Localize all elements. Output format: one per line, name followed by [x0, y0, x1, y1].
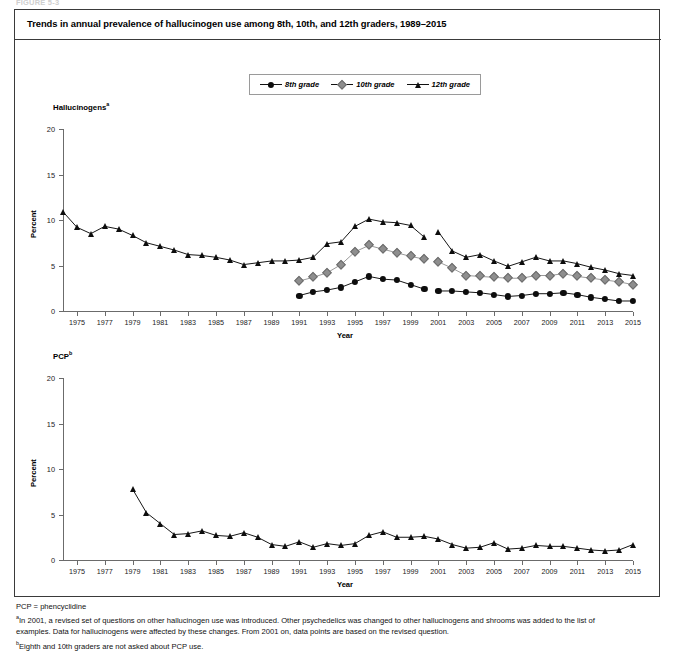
data-point-triangle [560, 543, 566, 549]
data-point-triangle [102, 223, 108, 229]
footnote-b: bEighth and 10th graders are not asked a… [16, 638, 616, 652]
data-point-triangle [338, 542, 344, 548]
data-point-triangle [241, 261, 247, 267]
data-point-triangle [560, 258, 566, 264]
footnote-a-text: In 2001, a revised set of questions on o… [16, 616, 595, 636]
data-point-triangle [143, 510, 149, 516]
data-point-triangle [449, 248, 455, 254]
data-point-triangle [171, 247, 177, 253]
data-point-triangle [421, 533, 427, 539]
data-point-triangle [213, 254, 219, 260]
data-point-triangle [616, 547, 622, 553]
series-line-12th-grade [133, 489, 633, 551]
footnote-b-text: Eighth and 10th graders are not asked ab… [19, 641, 203, 650]
data-point-triangle [116, 226, 122, 232]
data-point-triangle [463, 545, 469, 551]
data-point-triangle [463, 254, 469, 260]
chart-panel-pcp: PCPb05101520Percent197519771979198119831… [15, 335, 661, 600]
data-point-triangle [199, 528, 205, 534]
data-point-triangle [505, 263, 511, 269]
data-point-triangle [449, 541, 455, 547]
data-point-triangle [630, 272, 636, 278]
data-point-triangle [380, 219, 386, 225]
data-point-triangle [352, 223, 358, 229]
data-point-triangle [408, 222, 414, 228]
data-point-triangle [324, 540, 330, 546]
data-point-triangle [366, 532, 372, 538]
data-point-triangle [227, 257, 233, 263]
chart-panel-hallucinogens: Hallucinogensa05101520Percent19751977197… [15, 86, 661, 351]
data-point-triangle [255, 534, 261, 540]
footnote-a: aIn 2001, a revised set of questions on … [16, 612, 616, 637]
data-point-triangle [130, 486, 136, 492]
series-line-10th-grade [299, 245, 424, 280]
data-point-triangle [491, 540, 497, 546]
data-point-triangle [477, 544, 483, 550]
data-point-triangle [60, 209, 66, 215]
series-line-8th-grade [299, 276, 424, 295]
data-point-triangle [241, 530, 247, 536]
data-point-triangle [616, 271, 622, 277]
data-point-triangle [324, 241, 330, 247]
data-point-triangle [310, 254, 316, 260]
data-point-triangle [602, 548, 608, 554]
data-point-triangle [199, 252, 205, 258]
data-point-triangle [310, 544, 316, 550]
data-point-triangle [394, 534, 400, 540]
series-lines [15, 335, 661, 570]
data-point-triangle [394, 220, 400, 226]
data-point-triangle [157, 243, 163, 249]
data-point-triangle [269, 541, 275, 547]
data-point-triangle [171, 531, 177, 537]
data-point-triangle [296, 539, 302, 545]
data-point-triangle [282, 258, 288, 264]
data-point-triangle [227, 533, 233, 539]
data-point-triangle [213, 532, 219, 538]
footnotes: PCP = phencyclidine aIn 2001, a revised … [16, 601, 616, 652]
data-point-triangle [143, 240, 149, 246]
figure-frame: Trends in annual prevalence of hallucino… [14, 9, 660, 597]
data-point-triangle [477, 251, 483, 257]
data-point-triangle [255, 260, 261, 266]
data-point-triangle [519, 259, 525, 265]
data-point-triangle [296, 257, 302, 263]
data-point-triangle [338, 239, 344, 245]
data-point-triangle [435, 536, 441, 542]
data-point-triangle [435, 229, 441, 235]
data-point-triangle [157, 520, 163, 526]
data-point-triangle [185, 530, 191, 536]
data-point-triangle [547, 258, 553, 264]
data-point-triangle [630, 541, 636, 547]
data-point-triangle [491, 258, 497, 264]
data-point-triangle [366, 216, 372, 222]
data-point-triangle [408, 534, 414, 540]
data-point-triangle [505, 546, 511, 552]
footnote-abbreviation: PCP = phencyclidine [16, 601, 616, 612]
data-point-triangle [130, 232, 136, 238]
data-point-triangle [588, 547, 594, 553]
data-point-triangle [574, 261, 580, 267]
data-point-triangle [547, 543, 553, 549]
data-point-triangle [269, 258, 275, 264]
data-point-triangle [74, 224, 80, 230]
page-title: Trends in annual prevalence of hallucino… [27, 18, 447, 29]
x-axis-label: Year [337, 580, 353, 589]
data-point-triangle [602, 267, 608, 273]
data-point-triangle [282, 543, 288, 549]
data-point-triangle [352, 540, 358, 546]
data-point-triangle [421, 234, 427, 240]
data-point-triangle [88, 231, 94, 237]
data-point-triangle [533, 254, 539, 260]
data-point-triangle [185, 251, 191, 257]
data-point-triangle [533, 542, 539, 548]
data-point-triangle [519, 545, 525, 551]
data-point-triangle [380, 529, 386, 535]
data-point-triangle [588, 264, 594, 270]
figure-tag: FIGURE 5-3 [16, 0, 59, 7]
data-point-triangle [574, 545, 580, 551]
